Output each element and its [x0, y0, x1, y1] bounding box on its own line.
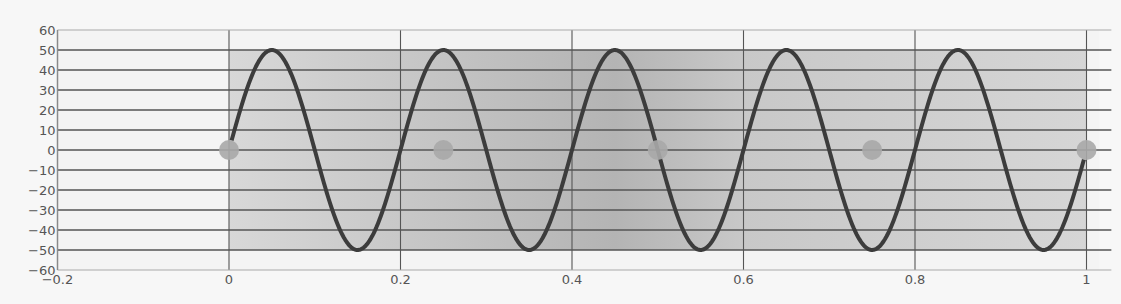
y-tick-label: −30 [28, 203, 55, 218]
y-tick-label: 20 [39, 103, 56, 118]
x-tick-label: −0.2 [42, 272, 74, 287]
x-tick-label: 0.4 [562, 272, 583, 287]
data-point-marker [1077, 140, 1097, 160]
chart: 6050403020100−10−20−30−40−50−60 −0.200.2… [0, 0, 1121, 304]
x-axis-tick-labels: −0.200.20.40.60.81 [42, 272, 1091, 287]
y-tick-label: −20 [28, 183, 55, 198]
y-tick-label: 10 [39, 123, 56, 138]
x-tick-label: 1 [1082, 272, 1090, 287]
y-tick-label: 50 [39, 43, 56, 58]
data-point-marker [648, 140, 668, 160]
x-tick-label: 0.2 [390, 272, 411, 287]
x-tick-label: 0 [225, 272, 233, 287]
y-tick-label: −10 [28, 163, 55, 178]
x-tick-label: 0.8 [905, 272, 926, 287]
y-tick-label: −40 [28, 223, 55, 238]
y-tick-label: 30 [39, 83, 56, 98]
y-tick-label: 40 [39, 63, 56, 78]
data-point-marker [433, 140, 453, 160]
y-tick-label: 0 [47, 143, 55, 158]
x-tick-label: 0.6 [733, 272, 754, 287]
data-point-marker [219, 140, 239, 160]
y-tick-label: −50 [28, 243, 55, 258]
y-axis-tick-labels: 6050403020100−10−20−30−40−50−60 [28, 23, 55, 278]
y-tick-label: 60 [39, 23, 56, 38]
data-point-marker [862, 140, 882, 160]
